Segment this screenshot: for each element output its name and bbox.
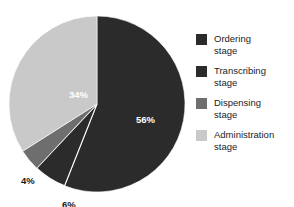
- legend-item-administration[interactable]: Administration stage: [196, 129, 291, 152]
- legend-label-ordering-line1: Ordering: [214, 33, 251, 44]
- legend-label-administration-line1: Administration: [214, 129, 274, 140]
- legend-label-dispensing: Dispensing stage: [214, 97, 261, 120]
- legend-item-transcribing[interactable]: Transcribing stage: [196, 65, 291, 88]
- legend-label-dispensing-line1: Dispensing: [214, 97, 261, 108]
- slice-label-transcribing: 6%: [62, 200, 76, 207]
- legend-swatch-icon-dispensing: [196, 98, 207, 109]
- legend-item-ordering[interactable]: Ordering stage: [196, 33, 291, 56]
- pie-chart-figure: 56% 6% 4% 34% Ordering stage Transcribin…: [0, 0, 294, 207]
- pie-slice-group: [9, 16, 185, 192]
- legend-label-administration-line2: stage: [214, 141, 237, 152]
- legend-label-ordering: Ordering stage: [214, 33, 251, 56]
- legend-item-dispensing[interactable]: Dispensing stage: [196, 97, 291, 120]
- legend-label-dispensing-line2: stage: [214, 109, 237, 120]
- pie-chart-svg: [7, 14, 187, 194]
- legend-label-ordering-line2: stage: [214, 45, 237, 56]
- chart-legend: Ordering stage Transcribing stage Dispen…: [196, 33, 291, 161]
- legend-swatch-icon-transcribing: [196, 66, 207, 77]
- legend-swatch-icon-administration: [196, 130, 207, 141]
- legend-label-transcribing: Transcribing stage: [214, 65, 266, 88]
- slice-label-ordering: 56%: [136, 115, 155, 125]
- legend-label-transcribing-line2: stage: [214, 77, 237, 88]
- slice-label-dispensing: 4%: [21, 176, 35, 186]
- pie-chart-plot-area: 56% 6% 4% 34%: [7, 14, 187, 194]
- legend-label-administration: Administration stage: [214, 129, 274, 152]
- legend-label-transcribing-line1: Transcribing: [214, 65, 266, 76]
- legend-swatch-icon-ordering: [196, 34, 207, 45]
- slice-label-administration: 34%: [69, 90, 88, 100]
